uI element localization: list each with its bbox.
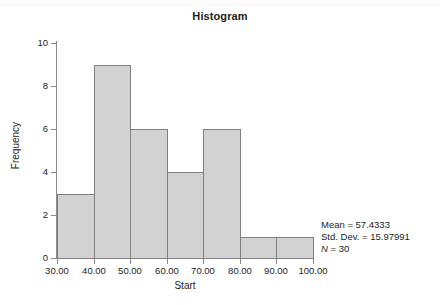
y-axis-tick-label: 8 xyxy=(22,80,48,91)
sample-size-value: = 30 xyxy=(328,243,349,254)
statistics-annotation: Mean = 57.4333 Std. Dev. = 15.97991 N = … xyxy=(321,219,410,255)
y-axis-title: Frequency xyxy=(10,96,21,196)
histogram-bar xyxy=(276,237,314,259)
sample-size-symbol: N xyxy=(321,243,328,254)
y-axis-tick xyxy=(51,86,57,87)
histogram-bar xyxy=(57,194,95,259)
x-axis-title: Start xyxy=(57,280,313,291)
std-dev-label: Std. Dev. = 15.97991 xyxy=(321,231,410,243)
histogram-bar xyxy=(167,172,204,259)
y-axis-tick-label: 4 xyxy=(22,166,48,177)
sample-size-label: N = 30 xyxy=(321,243,410,255)
y-axis-tick-label: 2 xyxy=(22,209,48,220)
y-axis-tick-label: 0 xyxy=(22,252,48,263)
scan-artifact xyxy=(0,0,440,7)
histogram-screenshot: Histogram 0246810 30.0040.0050.0060.0070… xyxy=(0,0,440,305)
x-axis-tick-label: 100.00 xyxy=(290,265,336,276)
mean-label: Mean = 57.4333 xyxy=(321,219,410,231)
chart-title: Histogram xyxy=(0,10,440,22)
y-axis-tick xyxy=(51,43,57,44)
y-axis-tick xyxy=(51,129,57,130)
y-axis-tick-label: 10 xyxy=(22,37,48,48)
y-axis-tick-label: 6 xyxy=(22,123,48,134)
y-axis-tick xyxy=(51,172,57,173)
histogram-bar xyxy=(203,129,241,259)
histogram-bar xyxy=(240,237,277,259)
histogram-bar xyxy=(130,129,168,259)
histogram-bar xyxy=(94,65,131,259)
